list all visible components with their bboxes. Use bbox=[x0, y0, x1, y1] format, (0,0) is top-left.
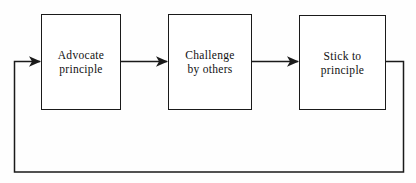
node-label-line-1: Advocate bbox=[58, 48, 104, 62]
node-label-line-2: principle bbox=[59, 62, 103, 76]
flowchart-node-challenge-by-others[interactable]: Challenge by others bbox=[168, 14, 252, 110]
node-label-line-2: principle bbox=[321, 63, 365, 77]
flowchart-node-advocate-principle[interactable]: Advocate principle bbox=[41, 14, 121, 110]
flowchart-node-stick-to-principle[interactable]: Stick to principle bbox=[299, 15, 386, 110]
node-label-line-2: by others bbox=[187, 62, 232, 76]
node-label-line-1: Challenge bbox=[185, 48, 234, 62]
flowchart-diagram: Advocate principle Challenge by others S… bbox=[0, 0, 416, 183]
node-label-line-1: Stick to bbox=[324, 49, 362, 63]
